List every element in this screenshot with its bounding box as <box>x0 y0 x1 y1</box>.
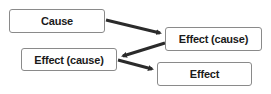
node-label: Effect (cause) <box>179 33 248 45</box>
node-effect: Effect <box>157 62 252 86</box>
node-effect-cause-1: Effect (cause) <box>165 27 262 51</box>
node-cause: Cause <box>9 9 105 33</box>
arrow-effect-cause-to-effect <box>118 60 152 69</box>
node-label: Effect <box>190 68 219 80</box>
node-label: Effect (cause) <box>34 54 103 66</box>
node-label: Cause <box>41 15 73 27</box>
arrow-cause-to-effect-cause <box>106 20 160 33</box>
node-effect-cause-2: Effect (cause) <box>21 48 117 71</box>
arrow-effect-cause-to-effect-cause <box>123 43 165 56</box>
